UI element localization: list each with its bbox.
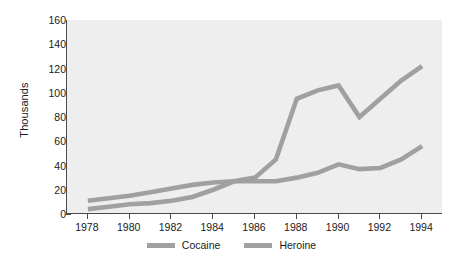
y-tick-label: 100: [40, 88, 66, 98]
x-tick-mark: [338, 214, 339, 219]
legend-item-heroine[interactable]: Heroine: [244, 240, 316, 251]
plot-area: [66, 20, 442, 214]
series-canvas: [67, 20, 443, 214]
x-tick-label: 1990: [318, 221, 358, 233]
x-tick-mark: [129, 214, 130, 219]
legend-swatch-icon: [147, 243, 175, 248]
y-tick-label: 140: [40, 39, 66, 49]
legend-label: Heroine: [279, 240, 316, 251]
legend-item-cocaine[interactable]: Cocaine: [147, 240, 221, 251]
series-line-heroine: [88, 146, 422, 201]
x-tick-mark: [296, 214, 297, 219]
legend-swatch-icon: [244, 243, 272, 248]
x-tick-label: 1992: [359, 221, 399, 233]
x-tick-label: 1980: [109, 221, 149, 233]
x-tick-label: 1982: [150, 221, 190, 233]
x-tick-mark: [254, 214, 255, 219]
x-tick-label: 1988: [276, 221, 316, 233]
y-tick-label: 40: [40, 161, 66, 171]
x-tick-label: 1986: [234, 221, 274, 233]
x-tick-mark: [421, 214, 422, 219]
x-tick-label: 1978: [67, 221, 107, 233]
x-tick-mark: [212, 214, 213, 219]
chart-legend: CocaineHeroine: [0, 240, 463, 251]
y-tick-label: 20: [40, 185, 66, 195]
x-axis-ticks: 197819801982198419861988199019921994: [66, 214, 442, 236]
y-tick-label: 160: [40, 15, 66, 25]
y-tick-label: 0: [40, 209, 66, 219]
y-tick-label: 80: [40, 112, 66, 122]
y-axis-title: Thousands: [18, 55, 30, 165]
line-chart: Thousands 020406080100120140160 19781980…: [0, 0, 463, 263]
legend-label: Cocaine: [182, 240, 221, 251]
x-tick-mark: [170, 214, 171, 219]
y-tick-label: 60: [40, 136, 66, 146]
x-tick-mark: [379, 214, 380, 219]
x-tick-label: 1984: [192, 221, 232, 233]
x-tick-label: 1994: [401, 221, 441, 233]
x-tick-mark: [87, 214, 88, 219]
y-axis-tick-labels: 020406080100120140160: [34, 20, 66, 214]
series-line-cocaine: [88, 66, 422, 209]
y-tick-label: 120: [40, 64, 66, 74]
